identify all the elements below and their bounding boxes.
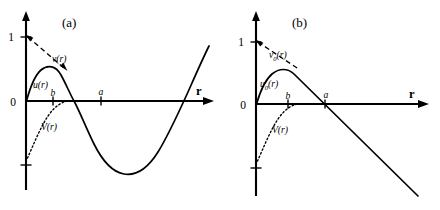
panel-a-xtick-label-a: a: [99, 86, 104, 97]
figure-canvas: (a) 1 0 v(r) u(r) V(r) b a r: [0, 0, 440, 210]
panel-a-xtick-label-b: b: [51, 87, 56, 98]
panel-b-label: (b): [292, 15, 307, 30]
panel-b-curve-label-V: V(r): [272, 124, 288, 136]
panel-b-curve-label-v0: v0(r): [269, 49, 287, 62]
panel-a-curve-u: [27, 46, 210, 174]
panel-a: (a) 1 0 v(r) u(r) V(r) b a r: [8, 11, 214, 190]
panel-a-curve-label-u: u(r): [33, 79, 48, 91]
panel-b-x-axis-label: r: [409, 87, 415, 101]
panel-b-xtick-label-b: b: [286, 90, 291, 101]
panel-a-ytick-label-zero: 0: [10, 96, 16, 108]
panel-b-x-axis-arrowhead: [418, 100, 429, 108]
panel-a-x-axis-arrowhead: [203, 97, 214, 105]
panel-a-ytick-label-one: 1: [8, 31, 14, 43]
panel-b-curve-label-u0-tail: (r): [268, 78, 278, 90]
panel-a-y-axis-arrowhead: [22, 11, 30, 21]
physics-figure-two-panel: (a) 1 0 v(r) u(r) V(r) b a r: [0, 0, 440, 210]
panel-b-ytick-label-zero: 0: [240, 99, 246, 111]
panel-b-xtick-label-a: a: [324, 89, 329, 100]
panel-a-x-axis-label: r: [196, 84, 202, 98]
panel-b-curve-label-v0-tail: (r): [277, 49, 287, 61]
panel-a-curve-label-V: V(r): [41, 121, 57, 133]
panel-b-y-axis-arrowhead: [252, 11, 260, 21]
panel-b-ytick-label-one: 1: [238, 36, 244, 48]
panel-b: (b) 1 0 v0(r) u0(r) V(r) b a r: [238, 11, 429, 196]
panel-b-curve-label-u0: u0(r): [260, 78, 278, 91]
panel-a-label: (a): [62, 15, 76, 30]
panel-a-curve-label-v: v(r): [52, 53, 66, 65]
